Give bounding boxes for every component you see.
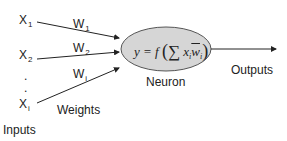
neuron-caption: Neuron — [146, 76, 185, 88]
neuron-formula: y = f (∑ xiwi) — [134, 40, 208, 61]
outputs-caption: Outputs — [231, 64, 273, 76]
neuron-diagram: X1 X2 . . Xi W1 W2 Wi Weights Inputs y =… — [0, 0, 287, 141]
input-x1: X1 — [19, 14, 32, 28]
weights-caption: Weights — [57, 104, 100, 116]
inputs-caption: Inputs — [3, 124, 36, 136]
weight-wi: Wi — [73, 68, 87, 82]
input-x2: X2 — [19, 49, 32, 63]
weight-w1: W1 — [73, 18, 90, 32]
ellipsis-dot-2: . — [24, 82, 27, 94]
input-xi: Xi — [19, 98, 30, 112]
weight-w2: W2 — [73, 42, 90, 56]
